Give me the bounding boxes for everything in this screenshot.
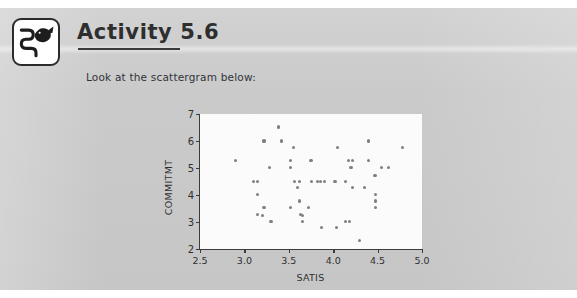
scatter-point — [347, 159, 350, 162]
x-axis-tick — [289, 249, 290, 253]
y-axis-tick-label: 3 — [188, 217, 194, 228]
y-axis-tick-label: 5 — [188, 163, 194, 174]
scatter-point — [320, 226, 323, 229]
scatter-point — [301, 214, 304, 217]
scatter-point — [363, 186, 366, 189]
plot-area: 2345672.53.03.54.04.55.0 — [199, 114, 422, 250]
x-axis-tick-label: 4.5 — [370, 255, 385, 266]
scatter-point — [310, 180, 313, 183]
scatter-point — [367, 139, 370, 142]
scatter-point — [269, 220, 272, 223]
y-axis-tick-label: 2 — [188, 244, 194, 255]
scatter-point — [333, 180, 336, 183]
scatter-point — [262, 139, 265, 142]
scatter-point — [344, 220, 347, 223]
scatter-point — [289, 166, 292, 169]
scatter-point — [292, 146, 295, 149]
y-axis-tick — [196, 168, 200, 169]
x-axis-tick — [378, 249, 379, 253]
scatter-point — [256, 180, 259, 183]
scatter-point — [374, 199, 377, 202]
scatter-point — [307, 206, 310, 209]
activity-page: Activity 5.6 Look at the scattergram bel… — [0, 0, 577, 298]
scatter-point — [358, 239, 361, 242]
y-axis-tick — [196, 114, 200, 115]
scatter-point — [387, 166, 390, 169]
y-axis-tick-label: 6 — [188, 136, 194, 147]
scatter-point — [277, 125, 280, 128]
scatter-point — [373, 174, 376, 177]
y-axis-title: COMMITMT — [163, 160, 174, 216]
page-title: Activity 5.6 — [77, 20, 219, 44]
scatter-point — [256, 213, 259, 216]
scatter-point — [309, 159, 312, 162]
instruction-text: Look at the scattergram below: — [86, 71, 256, 83]
scattergram: COMMITMT 2345672.53.03.54.04.55.0 SATIS — [160, 100, 460, 280]
scatter-point — [349, 166, 352, 169]
scatter-point — [293, 180, 296, 183]
scatter-point — [344, 180, 347, 183]
x-axis-tick — [422, 249, 423, 253]
scatter-point — [351, 186, 354, 189]
scatter-point — [256, 193, 259, 196]
x-axis-tick-label: 2.5 — [192, 255, 207, 266]
x-axis-tick-label: 4.0 — [326, 255, 341, 266]
y-axis-tick — [196, 141, 200, 142]
x-axis-tick-label: 5.0 — [414, 255, 429, 266]
scatter-point — [380, 166, 383, 169]
scatter-point — [252, 180, 255, 183]
x-axis-tick-label: 3.0 — [237, 255, 252, 266]
x-axis-tick — [244, 249, 245, 253]
scatter-point — [289, 206, 292, 209]
scatter-point — [319, 180, 322, 183]
scatter-point — [280, 139, 283, 142]
scatter-point — [234, 159, 237, 162]
scatter-point — [298, 180, 301, 183]
y-axis-tick-label: 4 — [188, 190, 194, 201]
scatter-point — [289, 159, 292, 162]
y-axis-tick-label: 7 — [188, 109, 194, 120]
scatter-point — [336, 146, 339, 149]
y-axis-tick — [196, 222, 200, 223]
x-axis-tick-label: 3.5 — [281, 255, 296, 266]
x-axis-tick — [333, 249, 334, 253]
x-axis-tick — [200, 249, 201, 253]
fish-over-stream-icon — [12, 18, 60, 66]
scatter-point — [367, 159, 370, 162]
scatter-point — [301, 220, 304, 223]
scatter-point — [268, 166, 271, 169]
scatter-point — [323, 180, 326, 183]
scatter-point — [351, 159, 354, 162]
scatter-point — [348, 220, 351, 223]
scatter-point — [261, 214, 264, 217]
x-axis-title: SATIS — [199, 272, 422, 283]
scatter-point — [401, 146, 404, 149]
y-axis-tick — [196, 195, 200, 196]
title-underline — [78, 48, 180, 50]
scatter-point — [374, 193, 377, 196]
scatter-point — [335, 226, 338, 229]
scatter-point — [374, 206, 377, 209]
scatter-point — [298, 199, 301, 202]
scatter-point — [296, 186, 299, 189]
scatter-point — [262, 206, 265, 209]
